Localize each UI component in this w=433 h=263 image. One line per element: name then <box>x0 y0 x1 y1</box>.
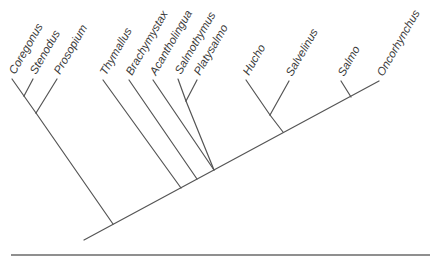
branch-salmo <box>341 81 351 97</box>
tree-backbone <box>84 81 379 240</box>
branch-platysalmo <box>186 80 197 101</box>
branch-salmothymus <box>178 79 186 101</box>
branch-coregoninae-stem <box>36 113 113 224</box>
taxon-label-oncorhynchus: Oncorhynchus <box>374 8 422 78</box>
branch-coregonus <box>12 79 24 96</box>
branch-hucho-salvelinus-stem <box>270 115 283 132</box>
branch-hucho <box>246 80 270 115</box>
branch-stenodus <box>24 79 33 96</box>
taxon-label-prosopium: Prosopium <box>51 22 89 76</box>
taxon-label-salmo: Salmo <box>335 43 362 78</box>
branch-thymallus <box>103 80 181 188</box>
taxon-label-salvelinus: Salvelinus <box>283 26 320 78</box>
branch-coregonus-stenodus-stem <box>24 96 36 113</box>
taxon-label-hucho: Hucho <box>240 42 267 77</box>
phylogenetic-tree: Coregonus Stenodus Prosopium Thymallus B… <box>0 0 433 263</box>
branch-salvelinus <box>270 81 289 115</box>
branch-prosopium <box>36 79 57 113</box>
